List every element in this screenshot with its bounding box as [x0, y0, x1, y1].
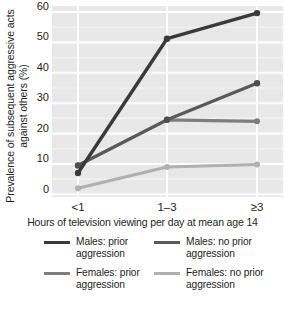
- x-tick-label-under-1: <1: [48, 201, 108, 213]
- legend-item-males-prior: Males: prior aggression: [44, 236, 154, 259]
- legend-label-line2: aggression: [76, 248, 125, 259]
- y-tick-label-30: 30: [23, 92, 49, 103]
- x-tick-label-3-or-more: ≥3: [227, 201, 285, 213]
- legend-item-females-no-prior: Females: no prior aggression: [154, 267, 272, 290]
- y-tick-label-50: 50: [23, 31, 49, 42]
- x-axis-title: Hours of television viewing per day at m…: [0, 216, 285, 228]
- legend-item-males-no-prior: Males: no prior aggression: [154, 236, 272, 259]
- y-tick-label-60: 60: [23, 1, 49, 12]
- y-tick-label-10: 10: [23, 153, 49, 164]
- chart-figure: Prevalence of subsequent aggressive acts…: [0, 0, 285, 315]
- y-tick-label-20: 20: [23, 123, 49, 134]
- chart-legend: Males: prior aggression Males: no prior …: [44, 236, 272, 290]
- legend-label-line1: Males: no prior: [186, 236, 252, 247]
- caption-cutoff-strip: [0, 309, 285, 315]
- legend-label-line2: aggression: [76, 279, 125, 290]
- legend-item-females-prior: Females: prior aggression: [44, 267, 154, 290]
- y-tick-label-40: 40: [23, 62, 49, 73]
- plot-svg: [52, 6, 283, 197]
- plot-area: [52, 6, 283, 197]
- x-tick-label-1-to-3: 1–3: [137, 201, 197, 213]
- legend-line-icon-females-no-prior: [154, 272, 180, 275]
- legend-label-line1: Females: no prior: [186, 267, 264, 278]
- legend-label-males-no-prior: Males: no prior aggression: [186, 236, 252, 259]
- y-tick-label-0: 0: [23, 184, 49, 195]
- legend-label-line2: aggression: [186, 279, 235, 290]
- legend-label-line1: Males: prior: [76, 236, 128, 247]
- legend-line-icon-females-prior: [44, 272, 70, 275]
- legend-label-females-prior: Females: prior aggression: [76, 267, 140, 290]
- legend-label-females-no-prior: Females: no prior aggression: [186, 267, 264, 290]
- legend-label-line2: aggression: [186, 248, 235, 259]
- legend-label-line1: Females: prior: [76, 267, 140, 278]
- legend-line-icon-males-prior: [44, 241, 70, 244]
- legend-label-males-prior: Males: prior aggression: [76, 236, 128, 259]
- legend-line-icon-males-no-prior: [154, 241, 180, 244]
